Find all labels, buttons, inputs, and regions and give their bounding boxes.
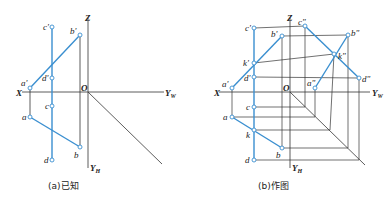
caption-a: (a)已知 [48, 180, 79, 191]
label-c: c [45, 101, 49, 111]
label-d-prime-b: d' [244, 73, 252, 83]
line-ab-top [30, 117, 80, 147]
label-d-b: d [245, 155, 250, 165]
label-a-dprime: a" [307, 78, 316, 88]
label-b-prime-b: b' [271, 29, 279, 39]
label-c-prime-b: c' [245, 23, 252, 33]
label-yw-axis: YW [165, 88, 177, 99]
label-b: b [74, 150, 79, 160]
line-ab-top-b [232, 117, 282, 148]
label-d-prime: d' [42, 73, 50, 83]
caption-b: (b)作图 [258, 180, 289, 191]
label-c-b: c [246, 102, 250, 112]
label-a-prime-b: a' [222, 79, 230, 89]
label-a-b: a [223, 112, 228, 122]
45-degree-line [88, 92, 162, 164]
label-z-axis: Z [84, 13, 91, 23]
construction-lines [232, 26, 359, 160]
label-b-dprime: b" [351, 28, 360, 38]
line-ab-front-b [232, 36, 282, 88]
label-origin: O [81, 83, 88, 93]
label-a: a [22, 112, 27, 122]
point-markers [28, 25, 82, 162]
label-yh-axis: YH [90, 163, 101, 174]
projection-diagrams: c' b' d' a' c a b d X Z O YW YH (a)已知 [0, 0, 389, 201]
label-d-dprime: d" [362, 74, 371, 84]
label-d: d [44, 155, 49, 165]
label-b-prime: b' [70, 26, 78, 36]
label-k-prime-b: k' [243, 58, 250, 68]
line-ab-side [315, 35, 348, 88]
45-degree-line-b [290, 92, 365, 165]
label-k-dprime: k" [338, 51, 346, 61]
figure-b: c' b' k' d' a' c" b" k" d" a" c a k b d … [213, 13, 384, 191]
label-z-axis-b: Z [286, 13, 293, 23]
label-yh-axis-b: YH [292, 163, 303, 174]
label-c-dprime: c" [298, 17, 306, 27]
label-c-prime: c' [43, 22, 50, 32]
label-yw-axis-b: YW [372, 88, 384, 99]
label-a-prime: a' [21, 78, 29, 88]
label-origin-b: O [283, 83, 290, 93]
figure-a: c' b' d' a' c a b d X Z O YW YH (a)已知 [15, 13, 177, 191]
label-x-axis-b: X [213, 88, 221, 98]
line-ab-front [30, 35, 80, 88]
label-b-b: b [276, 150, 281, 160]
label-k-b: k [246, 130, 251, 140]
label-x-axis: X [15, 88, 23, 98]
